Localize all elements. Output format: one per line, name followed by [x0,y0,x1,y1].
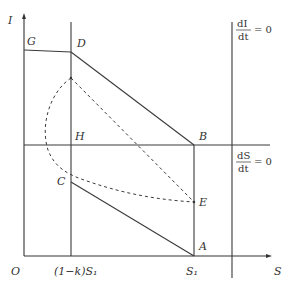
point-H-label: H [74,130,85,143]
dS-equals: = 0 [254,156,272,167]
segment-GD [24,50,71,52]
y-axis [22,13,26,256]
nullcline-dS-label: dS dt = 0 [236,150,272,174]
point-A-label: A [198,240,207,253]
nullcline-dI-label: dI dt = 0 [236,18,272,42]
dS-numerator: dS [237,150,250,161]
x-axis-arrow-icon [266,254,272,258]
y-axis-arrow-icon [22,13,26,19]
point-top-marker [70,77,72,79]
origin-label: O [11,265,20,278]
phase-diagram: I S O (1−k)S₁ S₁ G D H C B E A dI dt = 0… [0,0,291,286]
dashed-trajectory-curve [45,78,194,202]
point-D-label: D [76,37,86,50]
dashed-trajectory-straight [71,78,194,202]
point-B-label: B [198,130,207,143]
x-tick-right-label: S₁ [186,265,198,278]
point-E-label: E [198,196,207,209]
segment-DB [71,52,194,145]
dI-denominator: dt [238,31,248,42]
point-C-label: C [57,175,66,188]
x-axis-label: S [274,265,282,278]
y-axis-label: I [7,14,13,27]
dI-numerator: dI [237,18,247,29]
segment-CA [71,182,194,256]
dI-equals: = 0 [254,24,272,35]
point-G-label: G [27,35,36,48]
x-tick-left-label: (1−k)S₁ [54,265,97,278]
dS-denominator: dt [238,163,248,174]
x-axis [24,254,272,258]
point-E-marker [193,201,195,203]
